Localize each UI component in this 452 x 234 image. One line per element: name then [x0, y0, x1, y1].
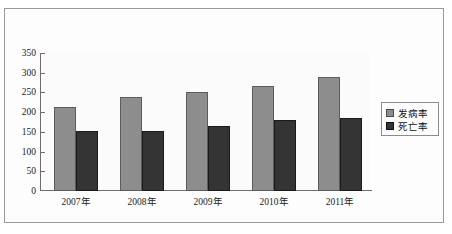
legend-item-series-b: 死亡率 — [386, 119, 434, 132]
legend-swatch-icon-series-b — [386, 122, 394, 130]
y-axis-tick-mark — [41, 112, 45, 113]
y-axis-tick-labels: 350300250200150100500 — [8, 0, 36, 234]
y-axis-tick-label: 50 — [27, 166, 37, 176]
y-axis-tick-mark — [41, 73, 45, 74]
legend-label-series-a: 发病率 — [398, 106, 428, 120]
bar-2010-series-a — [252, 86, 274, 191]
bar-chart-figure: 350300250200150100500 2007年2008年2009年201… — [0, 0, 452, 234]
y-axis-tick-mark — [41, 92, 45, 93]
legend-label-series-b: 死亡率 — [398, 119, 428, 133]
x-axis-tick-label: 2007年 — [46, 196, 106, 208]
bar-2009-series-b — [208, 126, 230, 191]
y-axis-tick-mark — [41, 53, 45, 54]
y-axis-tick-label: 150 — [22, 127, 36, 137]
legend-item-series-a: 发病率 — [386, 106, 434, 119]
chart-legend: 发病率 死亡率 — [381, 102, 439, 136]
bar-2010-series-b — [274, 120, 296, 191]
x-axis-tick-label: 2010年 — [244, 196, 304, 208]
y-axis-tick-mark — [41, 152, 45, 153]
bar-2009-series-a — [186, 92, 208, 191]
y-axis-tick-mark — [41, 171, 45, 172]
y-axis-tick-label: 200 — [22, 107, 36, 117]
bar-2008-series-b — [142, 131, 164, 191]
x-axis-tick-label: 2008年 — [112, 196, 172, 208]
bar-2007-series-b — [76, 131, 98, 191]
y-axis-tick-label: 250 — [22, 87, 36, 97]
x-axis-tick-label: 2011年 — [310, 196, 370, 208]
y-axis-tick-label: 350 — [22, 48, 36, 58]
bar-2011-series-a — [318, 77, 340, 191]
y-axis-tick-mark — [41, 132, 45, 133]
x-axis-tick-label: 2009年 — [178, 196, 238, 208]
y-axis-tick-label: 300 — [22, 68, 36, 78]
bar-2008-series-a — [120, 97, 142, 191]
bar-2007-series-a — [54, 107, 76, 191]
y-axis-tick-label: 0 — [31, 186, 36, 196]
legend-swatch-icon-series-a — [386, 109, 394, 117]
bar-2011-series-b — [340, 118, 362, 191]
y-axis-tick-label: 100 — [22, 147, 36, 157]
